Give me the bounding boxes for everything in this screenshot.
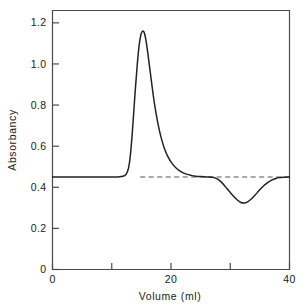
x-axis-title: Volume (ml) (139, 290, 202, 302)
x-tick-label-20: 20 (165, 273, 177, 285)
y-tick-label-0.8: 0.8 (31, 99, 47, 111)
y-tick-label-0: 0 (40, 263, 46, 275)
y-axis-title: Absorbancy (6, 109, 18, 171)
x-tick-label-40: 40 (283, 273, 295, 285)
chart-canvas: 02040 00.20.40.60.81.01.2 Volume (ml) Ab… (0, 0, 306, 305)
plot-frame (53, 11, 290, 270)
y-tick-label-0.4: 0.4 (31, 181, 47, 193)
axes-frame (53, 11, 290, 270)
y-tick-label-0.2: 0.2 (31, 222, 47, 234)
y-axis-tick-labels: 00.20.40.60.81.01.2 (31, 16, 47, 275)
y-tick-label-1: 1.0 (31, 58, 47, 70)
y-tick-label-1.2: 1.2 (31, 16, 47, 28)
y-tick-label-0.6: 0.6 (31, 140, 47, 152)
x-axis-tick-marks (53, 263, 290, 270)
absorbancy-vs-volume-chart: 02040 00.20.40.60.81.01.2 Volume (ml) Ab… (0, 0, 306, 305)
x-tick-label-0: 0 (49, 273, 55, 285)
x-axis-tick-labels: 02040 (49, 273, 295, 285)
y-axis-tick-marks (53, 23, 60, 270)
